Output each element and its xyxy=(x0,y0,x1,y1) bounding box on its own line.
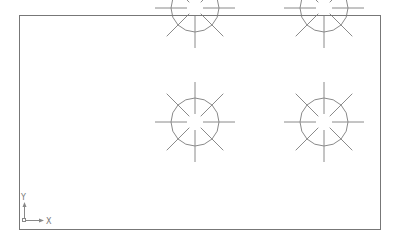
ucs-origin-box xyxy=(23,219,26,222)
drawing-canvas[interactable]: Y X xyxy=(0,0,395,242)
ucs-y-label: Y xyxy=(20,193,26,202)
canvas-background xyxy=(0,0,395,242)
ucs-x-label: X xyxy=(46,217,52,226)
